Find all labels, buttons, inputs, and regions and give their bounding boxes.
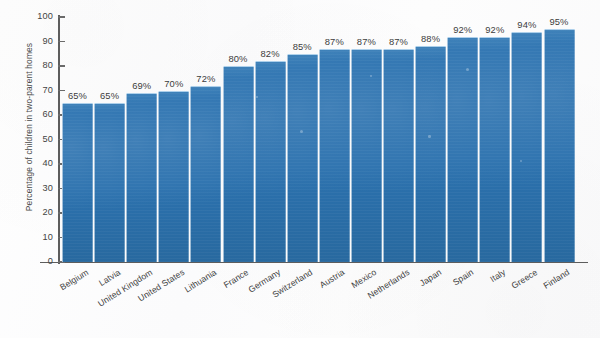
y-tick-label-80: 80: [31, 60, 53, 70]
bar-mexico: [351, 49, 382, 262]
bar-united-states: [158, 91, 189, 263]
bar-lithuania: [190, 86, 221, 262]
bar-value-label-japan: 88%: [411, 33, 450, 44]
bar-value-label-lithuania: 72%: [186, 73, 225, 84]
y-tick-label-30: 30: [31, 183, 53, 193]
x-axis-line: [40, 262, 588, 263]
bar-chart: Percentage of children in two-parent hom…: [0, 0, 600, 338]
bar-france: [223, 66, 254, 262]
bar-finland: [544, 29, 575, 262]
y-tick-label-20: 20: [31, 207, 53, 217]
bar-austria: [319, 49, 350, 262]
bar-germany: [255, 61, 286, 262]
bar-spain: [447, 37, 478, 262]
bar-belgium: [62, 103, 93, 262]
y-tick-label-100: 100: [31, 11, 53, 21]
bar-value-label-latvia: 65%: [90, 90, 129, 101]
y-tick-label-40: 40: [31, 158, 53, 168]
y-tick-label-90: 90: [31, 36, 53, 46]
bar-united-kingdom: [126, 93, 157, 262]
y-tick-label-50: 50: [31, 134, 53, 144]
bar-latvia: [94, 103, 125, 262]
bar-switzerland: [287, 54, 318, 262]
y-tick-label-10: 10: [31, 232, 53, 242]
y-tick-label-60: 60: [31, 109, 53, 119]
bar-greece: [511, 32, 542, 262]
y-tick-100: [58, 16, 65, 17]
y-tick-label-0: 0: [31, 256, 53, 266]
y-tick-80: [58, 65, 65, 66]
bar-value-label-finland: 95%: [540, 16, 579, 27]
bar-japan: [415, 46, 446, 262]
bar-netherlands: [383, 49, 414, 262]
y-tick-90: [58, 41, 65, 42]
y-tick-label-70: 70: [31, 85, 53, 95]
bar-italy: [479, 37, 510, 262]
